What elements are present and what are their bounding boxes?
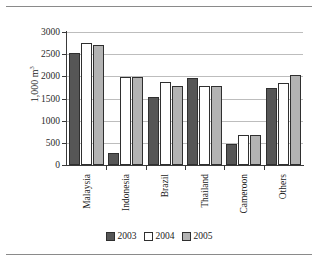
y-axis-tick-mark	[62, 99, 67, 100]
y-axis-tick-mark	[62, 54, 67, 55]
legend: 200320042005	[0, 231, 318, 241]
bar-group	[224, 32, 263, 165]
bar-indonesia-2005	[132, 77, 143, 165]
legend-label-2004: 2004	[156, 231, 175, 241]
y-axis-tick-label: 2500	[26, 50, 60, 59]
x-axis-category-label: Malaysia	[82, 174, 92, 209]
y-axis-tick-mark	[62, 121, 67, 122]
x-axis-tick-mark	[224, 165, 225, 170]
x-axis-tick-mark	[264, 165, 265, 170]
y-axis-tick-labels: 050010001500200025003000	[20, 32, 60, 165]
y-axis-tick-label: 3000	[26, 28, 60, 37]
x-axis-category-label: Cameroon	[239, 174, 249, 214]
x-axis-category-labels: MalaysiaIndonesiaBrazilThailandCameroonO…	[67, 172, 303, 224]
bar-thailand-2003	[187, 78, 198, 165]
x-axis-category: Indonesia	[106, 172, 145, 224]
y-axis-tick-label: 500	[26, 138, 60, 147]
bar-cameroon-2004	[238, 135, 249, 165]
y-axis-tick-label: 0	[26, 161, 60, 170]
bar-group	[264, 32, 303, 165]
bar-brazil-2005	[172, 86, 183, 165]
bar-cameroon-2005	[250, 135, 261, 165]
plot-area	[67, 32, 303, 165]
legend-item-2005[interactable]: 2005	[182, 231, 213, 241]
bar-thailand-2005	[211, 86, 222, 165]
bar-brazil-2004	[160, 82, 171, 165]
legend-label-2003: 2003	[118, 231, 137, 241]
x-axis-tick-mark	[146, 165, 147, 170]
bar-others-2005	[290, 75, 301, 165]
bar-indonesia-2004	[120, 77, 131, 165]
y-axis-tick-mark	[62, 165, 67, 166]
legend-swatch-2003	[106, 232, 115, 241]
legend-label-2005: 2005	[194, 231, 213, 241]
x-axis-category: Others	[264, 172, 303, 224]
bar-group	[67, 32, 106, 165]
x-axis-category-label: Brazil	[160, 174, 170, 197]
x-axis-ticks	[67, 165, 303, 170]
y-axis-tick-label: 1000	[26, 116, 60, 125]
x-axis-category-label: Thailand	[200, 174, 210, 208]
y-axis-tick-mark	[62, 143, 67, 144]
x-axis-category: Brazil	[146, 172, 185, 224]
bar-group	[146, 32, 185, 165]
y-axis-tick-mark	[62, 76, 67, 77]
legend-item-2004[interactable]: 2004	[144, 231, 175, 241]
legend-item-2003[interactable]: 2003	[106, 231, 137, 241]
x-axis-category: Cameroon	[224, 172, 263, 224]
x-axis-category: Malaysia	[67, 172, 106, 224]
top-rule	[6, 6, 312, 7]
legend-swatch-2004	[144, 232, 153, 241]
bar-thailand-2004	[199, 86, 210, 165]
bar-malaysia-2003	[69, 53, 80, 165]
bar-cameroon-2003	[226, 144, 237, 165]
x-axis-category-label: Indonesia	[121, 174, 131, 211]
y-axis-tick-label: 2000	[26, 72, 60, 81]
bar-group	[106, 32, 145, 165]
bar-brazil-2003	[148, 97, 159, 165]
y-axis-tick-label: 1500	[26, 94, 60, 103]
bar-others-2004	[278, 83, 289, 165]
bottom-rule	[6, 254, 312, 255]
y-axis-tick-mark	[62, 32, 67, 33]
figure: 1,000 m3 050010001500200025003000 Malays…	[0, 0, 318, 265]
bar-malaysia-2005	[93, 45, 104, 165]
legend-swatch-2005	[182, 232, 191, 241]
bar-others-2003	[266, 88, 277, 165]
x-axis-tick-mark	[185, 165, 186, 170]
bar-indonesia-2003	[108, 153, 119, 165]
x-axis-category-label: Others	[278, 174, 288, 199]
bar-group	[185, 32, 224, 165]
x-axis-tick-mark	[106, 165, 107, 170]
x-axis-category: Thailand	[185, 172, 224, 224]
bar-malaysia-2004	[81, 43, 92, 165]
bar-groups	[67, 32, 303, 165]
